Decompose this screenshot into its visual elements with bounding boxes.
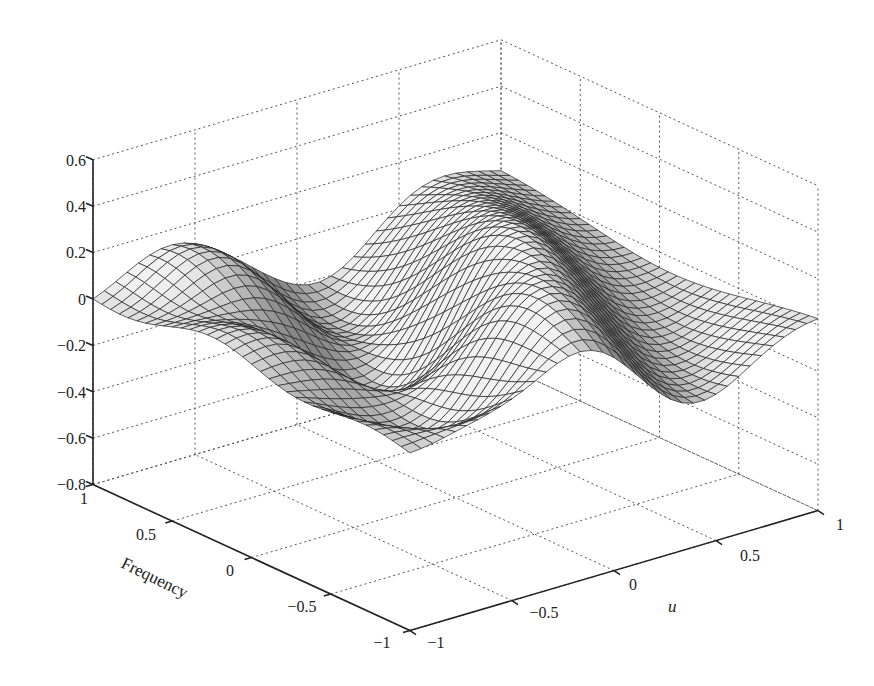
u-tick-label: 0.5 [740,547,760,564]
z-tick-label: −0.4 [57,384,86,401]
frequency-tick-label: 1 [80,490,88,507]
frequency-tick-label: 0.5 [136,526,156,543]
frequency-axis-title: Frequency [118,554,191,603]
z-tick-label: 0 [78,291,86,308]
u-tick-label: 1 [836,516,844,533]
z-tick-label: 0.6 [66,152,86,169]
surface-mesh [93,171,818,453]
z-tick-label: 0.2 [66,244,86,261]
z-tick-label: 0.4 [66,198,86,215]
z-tick-label: −0.2 [57,337,86,354]
frequency-tick-label: −0.5 [287,598,316,615]
z-tick-label: −0.6 [57,430,86,447]
frequency-tick-label: −1 [373,634,390,651]
u-tick-label: −0.5 [529,604,558,621]
surface-plot: 0.6 0.4 0.2 0 −0.2 −0.4 −0.6 −0.8 1 0.5 … [0,0,874,686]
frequency-tick-label: 0 [226,562,234,579]
u-tick-label: −1 [427,634,444,651]
u-tick-label: 0 [629,576,637,593]
u-axis-title: u [668,597,677,616]
